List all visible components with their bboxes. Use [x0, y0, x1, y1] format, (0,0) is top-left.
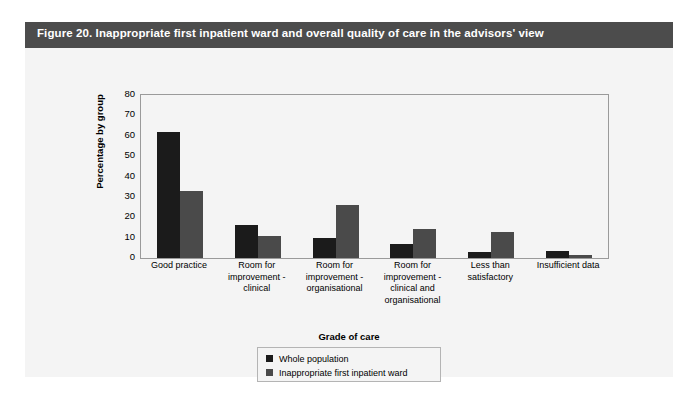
y-axis-tick: 50	[109, 150, 135, 160]
x-axis-tick-label: Insufficient data	[522, 260, 614, 272]
figure-panel: Figure 20. Inappropriate first inpatient…	[25, 22, 673, 377]
legend-label: Inappropriate first inpatient ward	[279, 368, 408, 378]
legend-swatch-icon	[266, 355, 273, 362]
bar	[336, 205, 359, 258]
y-axis-tick: 10	[109, 232, 135, 242]
y-axis-tick: 20	[109, 211, 135, 221]
y-axis-label: Percentage by group	[94, 62, 105, 222]
chart-legend: Whole populationInappropriate first inpa…	[257, 347, 441, 382]
bar	[180, 191, 203, 258]
y-axis-tick: 80	[109, 89, 135, 99]
y-axis-tick: 0	[109, 252, 135, 262]
bar-group	[313, 95, 359, 258]
bar	[390, 244, 413, 258]
y-axis-tick: 40	[109, 171, 135, 181]
plot-area	[140, 94, 609, 259]
bars-layer	[141, 95, 608, 258]
y-axis-tick: 70	[109, 109, 135, 119]
bar	[546, 251, 569, 258]
bar-group	[157, 95, 203, 258]
bar	[491, 232, 514, 258]
bar	[313, 238, 336, 258]
x-axis-tick-labels: Good practiceRoom forimprovement -clinic…	[140, 260, 607, 330]
bar-group	[468, 95, 514, 258]
bar	[569, 255, 592, 258]
bar	[157, 132, 180, 258]
legend-entry: Inappropriate first inpatient ward	[266, 366, 440, 379]
legend-swatch-icon	[266, 369, 273, 376]
bar-group	[235, 95, 281, 258]
y-axis-tick: 60	[109, 130, 135, 140]
legend-entry: Whole population	[266, 352, 440, 365]
bar	[413, 229, 436, 258]
bar	[258, 236, 281, 258]
chart-body: Percentage by group 80706050403020100 Go…	[25, 48, 673, 377]
legend-label: Whole population	[279, 354, 349, 364]
y-axis-tick: 30	[109, 191, 135, 201]
bar-group	[390, 95, 436, 258]
bar	[468, 252, 491, 258]
bar	[235, 225, 258, 258]
bar-group	[546, 95, 592, 258]
y-axis-ticks: 80706050403020100	[107, 94, 135, 257]
figure-title: Figure 20. Inappropriate first inpatient…	[37, 27, 544, 39]
figure-header-bar: Figure 20. Inappropriate first inpatient…	[25, 22, 673, 48]
legend-title: Grade of care	[25, 331, 673, 342]
